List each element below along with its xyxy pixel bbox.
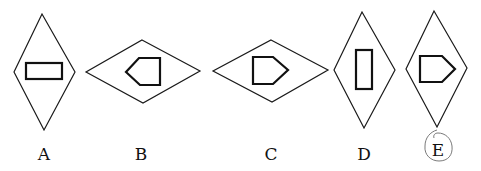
rhombus-e <box>406 11 467 127</box>
pentagon-e <box>420 56 455 82</box>
pentagon-c <box>253 57 288 84</box>
option-b[interactable]: B <box>86 40 200 164</box>
rectangle-a <box>26 63 62 79</box>
option-label-a: A <box>37 144 51 164</box>
option-label-b: B <box>135 144 148 164</box>
option-a[interactable]: A <box>14 14 75 164</box>
option-e[interactable]: E <box>406 11 467 161</box>
option-label-d: D <box>357 144 371 164</box>
option-label-c: C <box>264 144 277 164</box>
rhombus-a <box>14 14 75 130</box>
rectangle-d <box>356 50 372 89</box>
option-c[interactable]: C <box>213 40 328 164</box>
rhombus-d <box>334 12 395 128</box>
option-d[interactable]: D <box>334 12 395 164</box>
rhombus-b <box>86 40 200 103</box>
pentagon-b <box>126 58 160 85</box>
option-label-e: E <box>432 140 444 160</box>
rhombus-c <box>213 40 328 102</box>
figure-canvas: A B C D E <box>0 0 481 171</box>
